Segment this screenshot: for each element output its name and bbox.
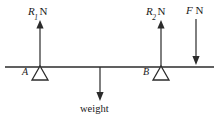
label-applied-force: F N	[186, 5, 203, 16]
arrow-head-f	[192, 56, 199, 65]
support-triangle-a	[32, 66, 48, 80]
label-reaction-right-subscript: 2	[152, 13, 156, 22]
arrow-head-r2	[157, 20, 164, 29]
label-weight: weight	[80, 104, 109, 115]
label-support-b: B	[143, 67, 149, 77]
label-applied-force-unit: N	[195, 4, 203, 16]
label-support-a: A	[22, 67, 28, 77]
free-body-diagram: R1 N R2 N F N A B weight	[0, 0, 218, 122]
label-reaction-right-unit: N	[157, 5, 165, 17]
arrow-head-weight	[96, 92, 103, 101]
label-reaction-right: R2 N	[146, 6, 165, 20]
label-reaction-left-subscript: 1	[34, 13, 38, 22]
label-reaction-left: R1 N	[28, 6, 47, 20]
label-applied-force-symbol: F	[186, 4, 193, 16]
label-reaction-left-unit: N	[39, 5, 47, 17]
support-triangle-b	[153, 66, 169, 80]
